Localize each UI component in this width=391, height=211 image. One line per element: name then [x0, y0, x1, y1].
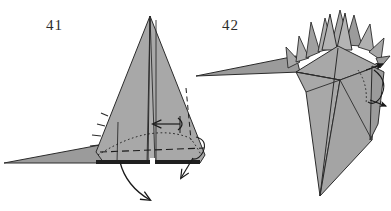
step-number-41: 41: [46, 17, 63, 33]
base-edge-bar: [96, 160, 200, 164]
base-notch-gap: [150, 158, 155, 165]
step-number-42: 42: [222, 17, 239, 33]
origami-instruction-diagram: 41: [0, 0, 391, 211]
